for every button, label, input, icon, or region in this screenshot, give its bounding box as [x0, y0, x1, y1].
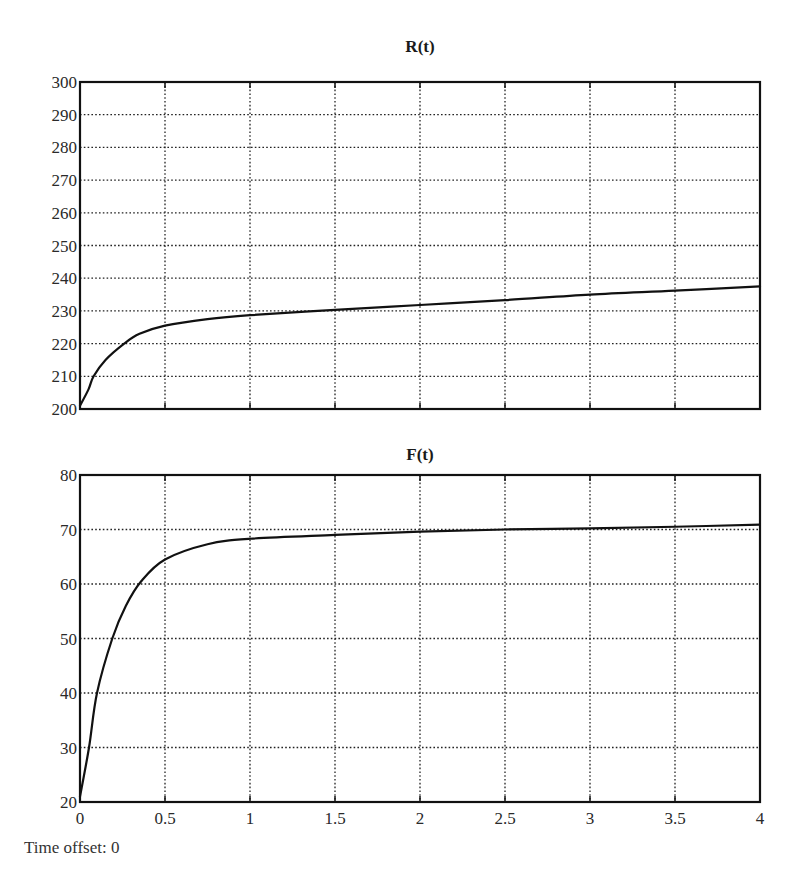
series-line: [80, 286, 760, 405]
y-tick-label: 40: [60, 684, 77, 703]
x-tick-label: 3.5: [664, 809, 685, 828]
y-tick-label: 200: [52, 400, 78, 419]
x-tick-label: 3: [586, 809, 595, 828]
y-tick-label: 220: [52, 335, 78, 354]
chart-canvas: R(t)200210220230240250260270280290300F(t…: [0, 0, 802, 895]
chart-title: R(t): [405, 37, 434, 56]
y-tick-label: 80: [60, 466, 77, 485]
y-tick-label: 250: [52, 237, 78, 256]
y-tick-label: 50: [60, 630, 77, 649]
y-tick-label: 240: [52, 269, 78, 288]
x-tick-label: 0: [76, 809, 85, 828]
x-tick-label: 2.5: [494, 809, 515, 828]
x-tick-label: 4: [756, 809, 765, 828]
time-offset-label: Time offset: 0: [24, 838, 119, 858]
y-tick-label: 300: [52, 73, 78, 92]
y-tick-label: 30: [60, 739, 77, 758]
y-tick-label: 60: [60, 575, 77, 594]
y-tick-label: 270: [52, 171, 78, 190]
r-chart: R(t)200210220230240250260270280290300: [52, 37, 761, 419]
x-tick-label: 2: [416, 809, 425, 828]
x-tick-label: 1.5: [324, 809, 345, 828]
series-line: [80, 525, 760, 797]
y-tick-label: 230: [52, 302, 78, 321]
y-tick-label: 210: [52, 367, 78, 386]
y-tick-label: 280: [52, 138, 78, 157]
y-tick-label: 290: [52, 106, 78, 125]
f-chart: F(t)2030405060708000.511.522.533.54: [60, 445, 765, 828]
x-tick-label: 1: [246, 809, 255, 828]
chart-title: F(t): [406, 445, 433, 464]
y-tick-label: 20: [60, 793, 77, 812]
y-tick-label: 70: [60, 521, 77, 540]
x-tick-label: 0.5: [154, 809, 175, 828]
y-tick-label: 260: [52, 204, 78, 223]
